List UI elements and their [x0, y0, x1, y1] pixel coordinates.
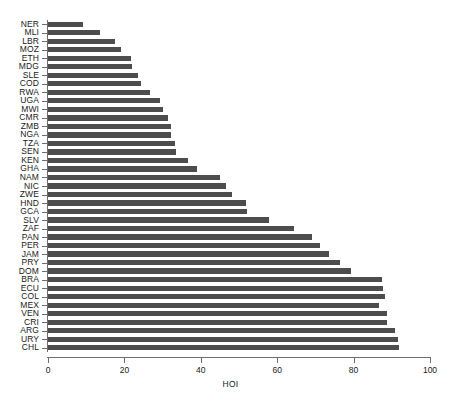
bar-col — [48, 294, 385, 299]
y-tick — [42, 152, 47, 153]
y-tick — [42, 101, 47, 102]
bar-cri — [48, 320, 387, 325]
bar-arg — [48, 328, 395, 333]
x-axis-title: HOI — [0, 379, 461, 389]
bar-row — [48, 260, 430, 265]
y-tick — [42, 67, 47, 68]
bar-row — [48, 124, 430, 129]
bar-sle — [48, 73, 138, 78]
y-tick — [42, 186, 47, 187]
bar-cmr — [48, 115, 168, 120]
bar-slv — [48, 217, 269, 222]
bar-row — [48, 166, 430, 171]
y-tick — [42, 331, 47, 332]
x-tick-label-100: 100 — [423, 365, 437, 375]
y-tick — [42, 314, 47, 315]
bar-nic — [48, 183, 226, 188]
bar-moz — [48, 47, 121, 52]
y-tick — [42, 195, 47, 196]
bar-row — [48, 149, 430, 154]
y-tick — [42, 177, 47, 178]
bar-ven — [48, 311, 387, 316]
bar-row — [48, 132, 430, 137]
bar-jam — [48, 251, 329, 256]
x-tick-label-80: 80 — [349, 365, 358, 375]
y-tick — [42, 280, 47, 281]
bar-gha — [48, 166, 197, 171]
y-tick — [42, 271, 47, 272]
bar-mdg — [48, 64, 132, 69]
y-tick — [42, 288, 47, 289]
bar-row — [48, 73, 430, 78]
bar-row — [48, 200, 430, 205]
x-tick-label-40: 40 — [196, 365, 205, 375]
x-tick — [48, 358, 49, 363]
y-tick — [42, 58, 47, 59]
x-tick — [430, 358, 431, 363]
y-tick — [42, 41, 47, 42]
bar-hnd — [48, 200, 246, 205]
y-tick-label-chl: CHL — [22, 343, 39, 352]
bar-zmb — [48, 124, 171, 129]
bar-row — [48, 294, 430, 299]
bar-chl — [48, 345, 399, 350]
bar-sen — [48, 149, 176, 154]
y-tick — [42, 297, 47, 298]
y-tick — [42, 254, 47, 255]
y-tick — [42, 348, 47, 349]
bar-gca — [48, 209, 247, 214]
bar-mli — [48, 30, 100, 35]
bar-zaf — [48, 226, 294, 231]
bar-row — [48, 107, 430, 112]
x-tick — [277, 358, 278, 363]
y-tick — [42, 126, 47, 127]
bar-row — [48, 64, 430, 69]
bar-row — [48, 277, 430, 282]
bar-row — [48, 226, 430, 231]
x-tick-label-20: 20 — [120, 365, 129, 375]
y-tick — [42, 24, 47, 25]
bar-row — [48, 217, 430, 222]
bar-row — [48, 209, 430, 214]
hoi-bar-chart: NERMLILBRMOZETHMDGSLECODRWAUGAMWICMRZMBN… — [0, 0, 461, 398]
bar-row — [48, 251, 430, 256]
x-tick-label-0: 0 — [46, 365, 51, 375]
bar-pan — [48, 234, 312, 239]
y-tick — [42, 339, 47, 340]
y-tick — [42, 229, 47, 230]
y-tick — [42, 246, 47, 247]
y-tick — [42, 212, 47, 213]
bar-row — [48, 30, 430, 35]
bar-row — [48, 175, 430, 180]
bar-rwa — [48, 90, 150, 95]
bar-ner — [48, 22, 83, 27]
bar-ury — [48, 337, 398, 342]
y-tick — [42, 160, 47, 161]
x-axis-line — [47, 357, 431, 358]
bar-row — [48, 303, 430, 308]
y-tick — [42, 135, 47, 136]
bar-cod — [48, 81, 141, 86]
bar-row — [48, 268, 430, 273]
x-tick — [124, 358, 125, 363]
bar-row — [48, 47, 430, 52]
y-tick — [42, 305, 47, 306]
y-tick — [42, 169, 47, 170]
bar-uga — [48, 98, 160, 103]
bar-ecu — [48, 286, 383, 291]
bar-mwi — [48, 107, 163, 112]
y-tick — [42, 263, 47, 264]
bar-ken — [48, 158, 188, 163]
y-tick — [42, 33, 47, 34]
bar-row — [48, 115, 430, 120]
bar-pry — [48, 260, 340, 265]
bar-row — [48, 328, 430, 333]
y-tick — [42, 50, 47, 51]
bar-row — [48, 22, 430, 27]
bar-nam — [48, 175, 220, 180]
bar-row — [48, 345, 430, 350]
bar-row — [48, 141, 430, 146]
bar-row — [48, 234, 430, 239]
y-tick — [42, 220, 47, 221]
y-tick — [42, 84, 47, 85]
